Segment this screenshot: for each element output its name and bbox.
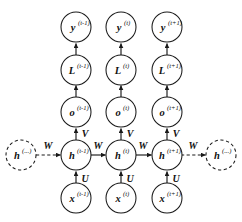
weight-label-V-next: V (173, 128, 181, 139)
node-o-curr: o (t) (106, 97, 136, 127)
weight-label-V-curr: V (127, 128, 135, 139)
node-y-next-symbol: y (159, 22, 166, 33)
node-o-prev-symbol: o (69, 107, 74, 118)
weight-label-W-curr-next: W (139, 140, 149, 151)
node-L-prev-superscript: (t-1) (77, 62, 89, 70)
node-L-curr-symbol: L (114, 65, 121, 76)
node-o-curr-symbol: o (115, 107, 120, 118)
node-h-prev-symbol: h (69, 150, 75, 161)
weight-label-U-prev: U (81, 173, 89, 184)
weight-label-W-prev-curr: W (94, 140, 104, 151)
node-h-next-symbol: h (159, 150, 165, 161)
node-h-curr-superscript: (t) (123, 147, 129, 155)
node-y-prev-symbol: y (69, 22, 76, 33)
node-y-curr-symbol: y (115, 22, 122, 33)
node-L-prev-symbol: L (68, 65, 75, 76)
node-h-curr: h (t) (106, 140, 136, 170)
node-y-prev-superscript: (t-1) (78, 19, 90, 27)
node-x-next: x (t+1) (152, 183, 182, 213)
weight-label-W-out: W (189, 140, 199, 151)
node-L-next: L (t+1) (152, 55, 182, 85)
node-h-next: h (t+1) (152, 140, 182, 170)
node-h-right-ellipsis-superscript: (...) (222, 147, 231, 155)
node-y-next-superscript: (t+1) (168, 19, 182, 27)
node-o-curr-superscript: (t) (123, 104, 129, 112)
node-y-curr: y (t) (106, 12, 136, 42)
node-o-next: o (t+1) (152, 97, 182, 127)
weight-label-U-next: U (172, 173, 180, 184)
node-h-right-ellipsis: h (...) (206, 140, 236, 170)
node-o-prev-superscript: (t-1) (77, 104, 89, 112)
node-h-prev-superscript: (t-1) (77, 147, 89, 155)
weight-label-V-prev: V (82, 128, 90, 139)
rnn-graph-canvas: y (t-1) y (t) y (t+1) L (t-1) L (t) L (t… (0, 0, 242, 222)
node-h-right-ellipsis-symbol: h (214, 150, 220, 161)
weight-label-W-in: W (44, 140, 54, 151)
node-x-curr: x (t) (106, 183, 136, 213)
node-x-prev-superscript: (t-1) (77, 190, 89, 198)
node-h-left-ellipsis-symbol: h (14, 150, 20, 161)
node-x-next-superscript: (t+1) (167, 190, 181, 198)
node-L-next-superscript: (t+1) (167, 62, 181, 70)
node-L-prev: L (t-1) (61, 55, 91, 85)
node-o-next-symbol: o (159, 107, 164, 118)
node-x-prev: x (t-1) (61, 183, 91, 213)
node-L-next-symbol: L (158, 65, 165, 76)
node-x-prev-symbol: x (68, 193, 74, 204)
node-x-curr-symbol: x (114, 193, 120, 204)
rnn-unfolded-diagram: y (t-1) y (t) y (t+1) L (t-1) L (t) L (t… (0, 0, 242, 222)
node-L-curr: L (t) (106, 55, 136, 85)
weight-label-U-curr: U (126, 173, 134, 184)
node-o-next-superscript: (t+1) (167, 104, 181, 112)
node-h-curr-symbol: h (115, 150, 121, 161)
node-y-curr-superscript: (t) (124, 19, 130, 27)
node-x-curr-superscript: (t) (123, 190, 129, 198)
node-h-left-ellipsis: h (...) (6, 140, 36, 170)
node-y-next: y (t+1) (152, 12, 182, 42)
node-y-prev: y (t-1) (61, 12, 91, 42)
node-x-next-symbol: x (158, 193, 164, 204)
node-h-prev: h (t-1) (61, 140, 91, 170)
node-o-prev: o (t-1) (61, 97, 91, 127)
node-h-left-ellipsis-superscript: (...) (22, 147, 31, 155)
node-h-next-superscript: (t+1) (167, 147, 181, 155)
node-L-curr-superscript: (t) (123, 62, 129, 70)
